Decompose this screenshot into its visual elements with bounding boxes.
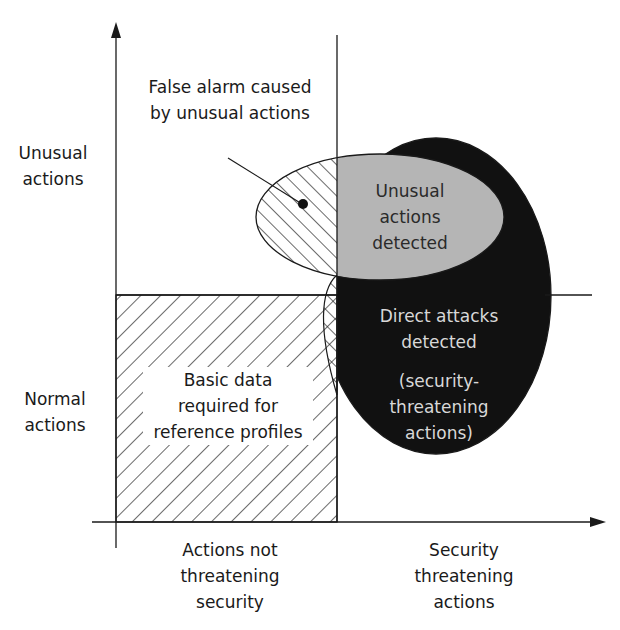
x-label-threatening: Security threatening actions: [384, 537, 544, 615]
basic-data-label: Basic data required for reference profil…: [143, 367, 313, 445]
y-label-normal: Normal actions: [10, 386, 100, 438]
y-axis-arrow-icon: [111, 22, 121, 38]
false-alarm-dot: [298, 199, 308, 209]
direct-attacks-note: (security- threatening actions): [364, 368, 514, 446]
y-label-unusual: Unusual actions: [8, 140, 98, 192]
x-axis-arrow-icon: [590, 517, 606, 527]
false-alarm-label: False alarm caused by unusual actions: [130, 74, 330, 126]
x-label-not-threatening: Actions not threatening security: [150, 537, 310, 615]
direct-attacks-label: Direct attacks detected: [364, 303, 514, 355]
unusual-detected-label: Unusual actions detected: [360, 178, 460, 256]
